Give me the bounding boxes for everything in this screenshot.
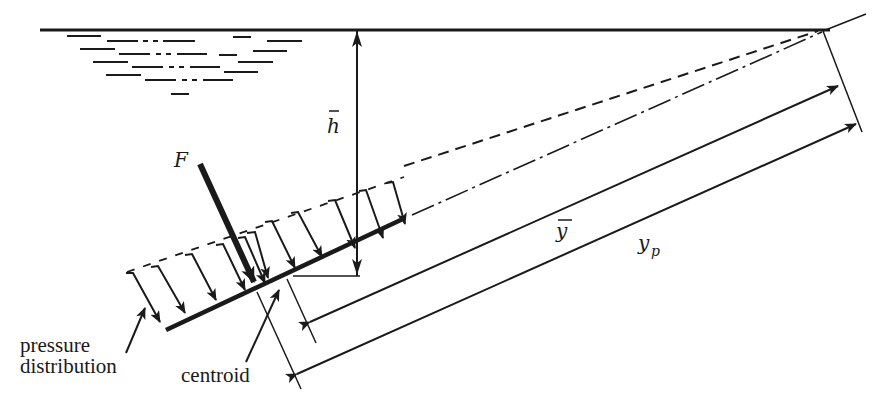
resultant-force-arrow [200, 164, 254, 282]
y-p-subscript: p [651, 243, 660, 259]
pressure-distribution-pointer [126, 308, 145, 353]
y-bar-dimension-line [310, 86, 838, 322]
inclined-surface-diagram: F h y y p pressure distribution centroid [0, 0, 875, 403]
depth-label-h: h [327, 114, 340, 138]
pressure-arrow [151, 266, 185, 313]
y-p-label: y [637, 231, 650, 255]
plate-extension-centerline [412, 32, 822, 215]
pressure-arrow [328, 200, 355, 248]
pressure-arrows [126, 182, 405, 322]
centroid-extension-line [287, 279, 316, 343]
pressure-distribution-label-line2: distribution [20, 354, 117, 378]
y-p-dimension-line [297, 124, 856, 374]
y-bar-label: y [555, 219, 568, 243]
centroid-label: centroid [181, 363, 250, 387]
pressure-center-extension-line [257, 292, 301, 389]
pressure-envelope-extension [404, 31, 818, 166]
force-label: F [173, 148, 189, 172]
pressure-arrow [265, 221, 295, 268]
surface-intersection-extension-line [823, 31, 862, 132]
water-hatching [67, 36, 302, 94]
centroid-pointer [246, 290, 279, 362]
incline-axis-top [823, 14, 866, 31]
pressure-arrow [291, 212, 322, 257]
pressure-arrow [185, 254, 216, 300]
